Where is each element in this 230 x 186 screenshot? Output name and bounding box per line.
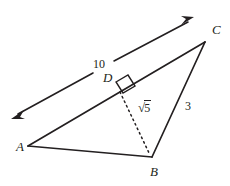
vertex-label-a: A bbox=[16, 140, 24, 153]
arrowhead-upper-right-icon bbox=[181, 16, 194, 25]
measure-label-ten: 10 bbox=[93, 58, 105, 70]
vertex-label-b: B bbox=[150, 165, 158, 178]
vertex-label-d: D bbox=[103, 71, 112, 84]
side-bc bbox=[152, 42, 205, 157]
vertex-label-c: C bbox=[212, 23, 221, 36]
arrowhead-lower-left-icon bbox=[11, 110, 25, 119]
side-ab bbox=[28, 146, 152, 157]
arrow-line-upper-right-part bbox=[114, 22, 188, 61]
measure-label-three: 3 bbox=[185, 100, 191, 112]
figure-canvas bbox=[0, 0, 230, 186]
radical-value: 5 bbox=[144, 100, 151, 115]
arrow-line-lower-left-part bbox=[18, 73, 93, 114]
measure-label-sqrt5: √5 bbox=[138, 101, 151, 114]
geometry-figure: A B C D 10 3 √5 bbox=[0, 0, 230, 186]
